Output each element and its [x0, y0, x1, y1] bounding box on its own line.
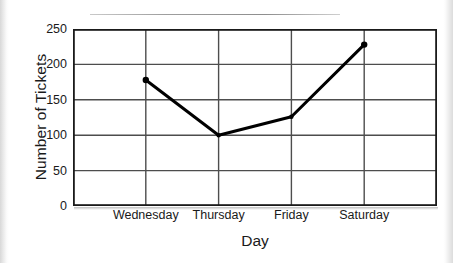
y-axis-tick-labels: 050100150200250 — [32, 29, 67, 206]
x-axis-tick-label: Saturday — [339, 208, 389, 222]
plot-border — [74, 30, 436, 205]
y-axis-tick-label: 150 — [46, 93, 67, 107]
data-point-markers — [143, 41, 368, 137]
line-chart-svg — [73, 29, 437, 206]
scan-edge-left — [0, 0, 9, 263]
x-axis-tick-label: Friday — [274, 208, 309, 222]
data-point-marker — [361, 41, 367, 47]
data-point-marker — [143, 77, 149, 83]
data-line — [146, 45, 364, 136]
y-axis-tick-label: 100 — [46, 128, 67, 142]
plot-area — [73, 29, 437, 206]
top-rule-artifact — [90, 14, 340, 15]
y-axis-tick-label: 0 — [60, 199, 67, 213]
y-axis-tick-label: 200 — [46, 57, 67, 71]
chart-figure: Number of Tickets 050100150200250 Wednes… — [0, 0, 453, 263]
x-axis-tick-labels: WednesdayThursdayFridaySaturday — [73, 208, 437, 228]
y-axis-tick-label: 250 — [46, 22, 67, 36]
y-axis-tick-label: 50 — [53, 164, 67, 178]
x-axis-title: Day — [73, 232, 437, 250]
scan-edge-right — [443, 0, 453, 263]
x-axis-tick-label: Wednesday — [113, 208, 179, 222]
data-point-marker — [289, 115, 293, 119]
x-axis-tick-label: Thursday — [193, 208, 245, 222]
data-point-marker — [216, 133, 220, 137]
vertical-gridlines — [146, 29, 364, 206]
horizontal-gridlines — [73, 64, 437, 170]
